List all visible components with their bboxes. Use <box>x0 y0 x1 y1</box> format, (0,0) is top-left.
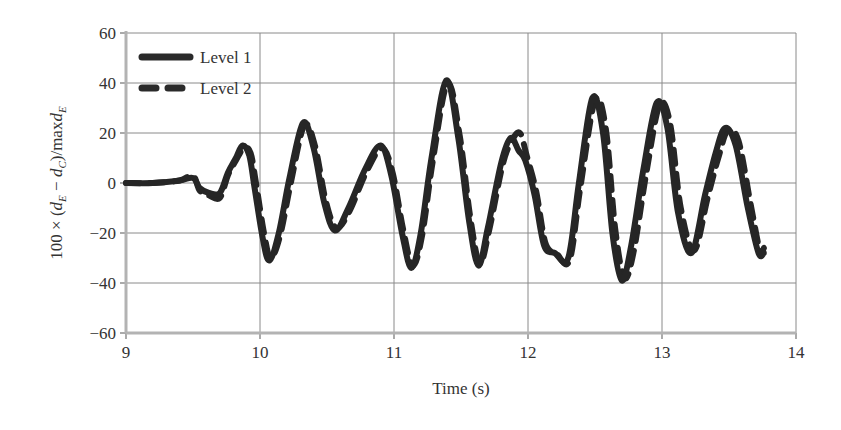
y-tick-label: −20 <box>89 224 116 243</box>
x-tick-label: 14 <box>788 343 806 362</box>
svg-text:100 × (dE − dC)/maxdE: 100 × (dE − dC)/maxdE <box>47 106 68 260</box>
y-tick-label: 0 <box>108 174 117 193</box>
y-tick-label: 60 <box>99 24 116 43</box>
legend-label-level-2: Level 2 <box>200 79 251 98</box>
x-tick-label: 12 <box>520 343 537 362</box>
y-axis-label: 100 × (dE − dC)/maxdE <box>47 106 68 260</box>
tick-labels: 6040200−20−40−6091011121314 <box>89 24 805 362</box>
x-tick-label: 13 <box>654 343 671 362</box>
x-tick-label: 10 <box>252 343 269 362</box>
legend-label-level-1: Level 1 <box>200 48 251 67</box>
x-tick-label: 9 <box>122 343 131 362</box>
x-axis-label: Time (s) <box>432 379 489 398</box>
y-tick-label: −60 <box>89 324 116 343</box>
y-tick-label: −40 <box>89 274 116 293</box>
line-chart: 6040200−20−40−6091011121314 100 × (dE − … <box>0 0 841 430</box>
y-tick-label: 40 <box>99 74 116 93</box>
series-level-2 <box>126 83 764 279</box>
x-tick-label: 11 <box>386 343 402 362</box>
y-tick-label: 20 <box>99 124 116 143</box>
data-series <box>126 80 764 280</box>
legend: Level 1 Level 2 <box>142 48 251 98</box>
